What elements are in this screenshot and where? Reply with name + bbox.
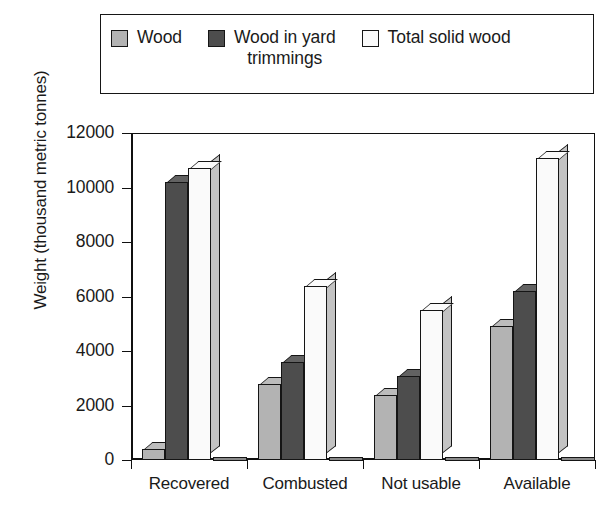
legend-swatch-wood-in-yard-trimmings xyxy=(208,30,225,47)
y-tick-mark xyxy=(122,406,131,407)
x-axis-ticks: RecoveredCombustedNot usableAvailable xyxy=(131,460,595,516)
bar-not-usable-wood xyxy=(374,395,397,460)
x-tick-label-combusted: Combusted xyxy=(262,474,347,494)
y-tick-label: 2000 xyxy=(76,395,114,416)
bar-front-face xyxy=(490,326,513,460)
bar-available-wood-in-yard-trimmings xyxy=(513,291,536,460)
legend-item-total-solid-wood: Total solid wood xyxy=(362,27,511,48)
bar-side-face xyxy=(443,296,452,453)
y-tick-label: 12000 xyxy=(66,122,114,143)
x-tick-mark xyxy=(363,460,364,469)
y-tick-label: 0 xyxy=(104,449,114,470)
bar-combusted-total-solid-wood xyxy=(304,286,327,460)
bar-front-face xyxy=(536,158,559,460)
bar-front-face xyxy=(165,182,188,460)
y-axis-ticks: 020004000600080001000012000 xyxy=(0,133,131,460)
bar-not-usable-wood-in-yard-trimmings xyxy=(397,376,420,460)
y-tick-label: 8000 xyxy=(76,231,114,252)
legend-item-wood: Wood xyxy=(111,27,182,48)
legend-label-total-solid-wood: Total solid wood xyxy=(388,27,511,48)
y-tick-mark xyxy=(122,188,131,189)
x-tick-label-not-usable: Not usable xyxy=(381,474,460,494)
bar-chart: Wood Wood in yard trimmings Total solid … xyxy=(0,0,608,516)
legend-swatch-total-solid-wood xyxy=(362,30,379,47)
chart-legend: Wood Wood in yard trimmings Total solid … xyxy=(100,14,594,94)
bar-side-face xyxy=(211,154,220,453)
legend-swatch-wood xyxy=(111,30,128,47)
bar-recovered-wood xyxy=(142,449,165,460)
x-tick-mark xyxy=(479,460,480,469)
bar-recovered-wood-in-yard-trimmings xyxy=(165,182,188,460)
bar-front-face xyxy=(304,286,327,460)
y-tick-mark xyxy=(122,242,131,243)
x-tick-mark xyxy=(595,460,596,469)
bar-available-total-solid-wood xyxy=(536,158,559,460)
x-tick-label-available: Available xyxy=(504,474,571,494)
x-tick-label-recovered: Recovered xyxy=(149,474,229,494)
bar-front-face xyxy=(374,395,397,460)
legend-label-wood-in-yard-trimmings: Wood in yard trimmings xyxy=(234,27,336,69)
y-tick-mark xyxy=(122,297,131,298)
bar-side-face xyxy=(327,272,336,453)
bar-not-usable-total-solid-wood xyxy=(420,310,443,460)
bar-front-face xyxy=(281,362,304,460)
legend-item-wood-in-yard-trimmings: Wood in yard trimmings xyxy=(208,27,336,69)
y-tick-label: 6000 xyxy=(76,286,114,307)
bar-front-face xyxy=(142,449,165,460)
x-tick-mark xyxy=(247,460,248,469)
bar-recovered-total-solid-wood xyxy=(188,168,211,460)
y-tick-label: 4000 xyxy=(76,340,114,361)
bar-front-face xyxy=(420,310,443,460)
bar-side-face xyxy=(559,143,568,453)
y-tick-mark xyxy=(122,351,131,352)
plot-area xyxy=(131,133,595,460)
bar-front-face xyxy=(258,384,281,460)
x-tick-mark xyxy=(131,460,132,469)
bar-front-face xyxy=(188,168,211,460)
y-tick-mark xyxy=(122,133,131,134)
bar-front-face xyxy=(513,291,536,460)
bar-front-face xyxy=(397,376,420,460)
bar-available-wood xyxy=(490,326,513,460)
y-tick-label: 10000 xyxy=(66,177,114,198)
legend-label-wood: Wood xyxy=(137,27,182,48)
bar-combusted-wood-in-yard-trimmings xyxy=(281,362,304,460)
bar-combusted-wood xyxy=(258,384,281,460)
y-tick-mark xyxy=(122,460,131,461)
